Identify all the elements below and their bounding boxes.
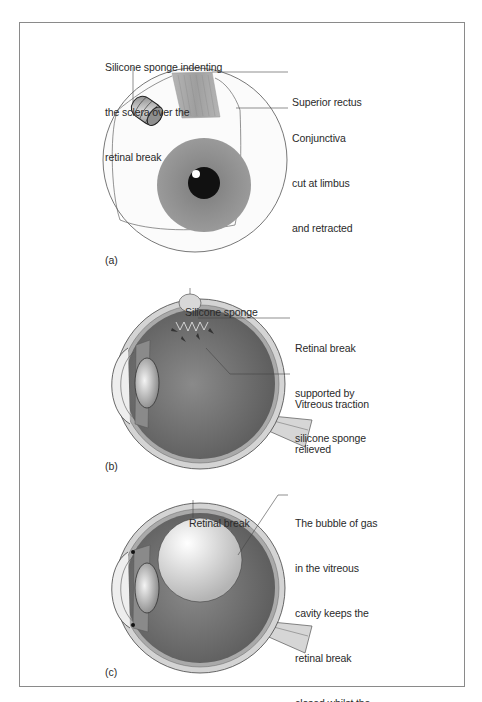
panel-label-b: (b)	[105, 460, 118, 472]
callout-conjunctiva: Conjunctiva cut at limbus and retracted	[292, 101, 353, 251]
panel-label-c: (c)	[105, 666, 117, 678]
callout-vitreous-traction: Vitreous traction relieved	[295, 367, 369, 472]
eye-illustrations	[0, 0, 482, 702]
callout-silicone-sponge: Silicone sponge	[185, 275, 258, 335]
callout-sponge-indenting: Silicone sponge indenting the sclera ove…	[105, 30, 222, 180]
callout-gas-bubble: The bubble of gas in the vitreous cavity…	[295, 486, 377, 702]
callout-retinal-break: Retinal break	[189, 486, 250, 546]
panel-label-a: (a)	[105, 254, 118, 266]
